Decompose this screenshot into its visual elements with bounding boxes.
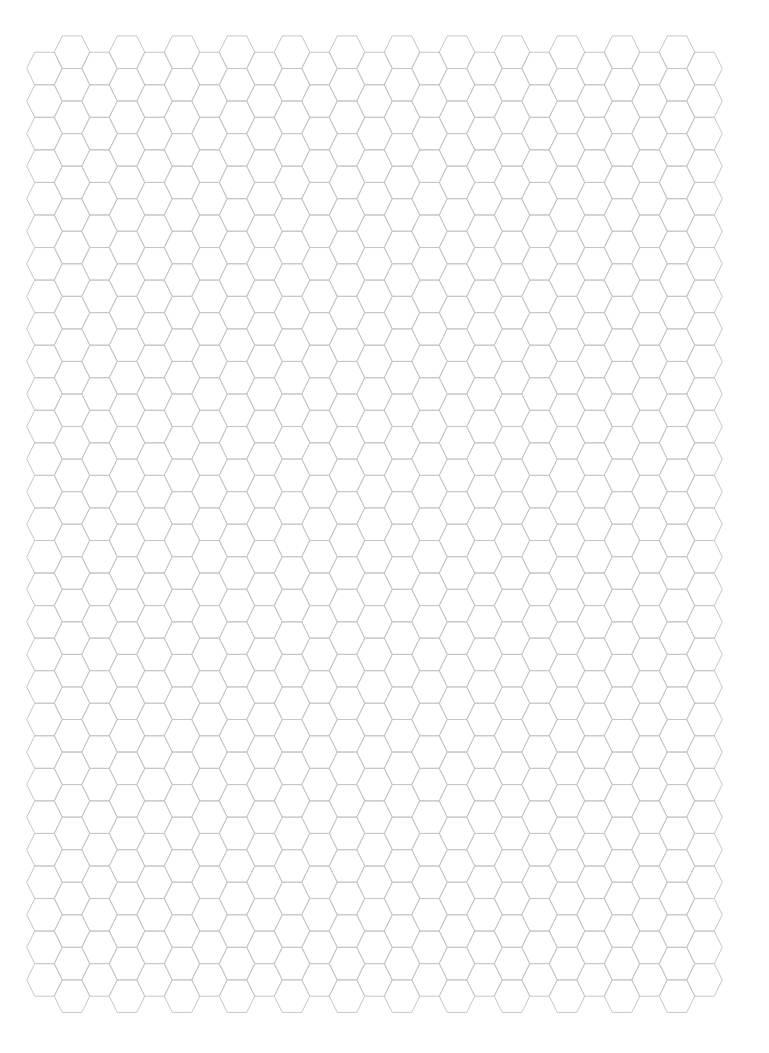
hexagon-grid (0, 0, 769, 1053)
hexagon-grid-lines (27, 36, 723, 1012)
hex-graph-paper-page (0, 0, 769, 1053)
